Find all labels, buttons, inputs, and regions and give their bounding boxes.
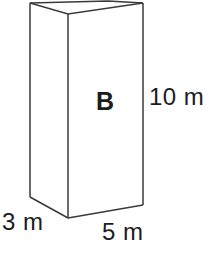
width-dimension-label: 5 m [102,220,144,244]
solid-label-b: B [96,89,114,114]
geometry-figure: B 10 m 3 m 5 m [0,0,213,256]
depth-dimension-label: 3 m [2,210,44,234]
prism-left-face [30,3,68,218]
height-dimension-label: 10 m [149,85,204,109]
